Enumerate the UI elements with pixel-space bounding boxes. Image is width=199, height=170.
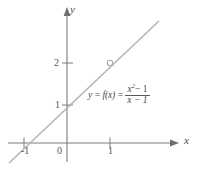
x-tick-label-0: 0: [57, 146, 62, 156]
y-tick-label-1: 1: [55, 100, 60, 110]
function-graph-figure: y x -1 0 1 1 2 y = f(x) = x2− 1 x − 1: [0, 0, 199, 170]
equation-denominator: x − 1: [125, 96, 149, 106]
equation-annotation: y = f(x) = x2− 1 x − 1: [88, 85, 150, 106]
equation-fraction: x2− 1 x − 1: [125, 85, 149, 106]
y-tick-label-2: 2: [54, 58, 59, 68]
x-axis-arrowhead: [170, 140, 179, 147]
x-tick-label-minus-1: -1: [21, 146, 29, 156]
y-axis-label: y: [70, 4, 75, 15]
x-axis-label: x: [184, 135, 189, 146]
equation-numerator: x2− 1: [125, 85, 149, 95]
numerator-tail: − 1: [135, 84, 147, 94]
removable-discontinuity-hole: [107, 60, 112, 65]
x-tick-label-1: 1: [108, 146, 113, 156]
y-axis: [64, 7, 71, 162]
equation-left-side: y = f(x) =: [88, 90, 123, 100]
